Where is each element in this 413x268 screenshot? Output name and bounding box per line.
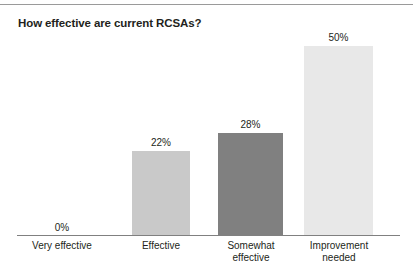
x-label-very-effective: Very effective bbox=[17, 240, 107, 252]
bar-improvement-needed[interactable] bbox=[304, 46, 373, 236]
bar-value-improvement-needed: 50% bbox=[304, 32, 373, 44]
bar-group-somewhat-effective: 28% bbox=[218, 0, 283, 236]
bar-somewhat-effective[interactable] bbox=[218, 133, 283, 236]
bar-value-effective: 22% bbox=[132, 137, 190, 149]
x-label-line: Effective bbox=[118, 240, 204, 252]
bar-slot: 22% bbox=[132, 0, 190, 236]
bar-slot: 0% bbox=[17, 0, 107, 236]
bar-effective[interactable] bbox=[132, 151, 190, 236]
bar-group-effective: 22% bbox=[132, 0, 190, 236]
x-label-line: effective bbox=[211, 252, 291, 264]
bar-value-very-effective: 0% bbox=[17, 222, 107, 234]
bar-value-somewhat-effective: 28% bbox=[218, 119, 283, 131]
bar-slot: 50% bbox=[304, 0, 373, 236]
x-label-line: Very effective bbox=[17, 240, 107, 252]
x-label-effective: Effective bbox=[118, 240, 204, 252]
x-label-improvement-needed: Improvement needed bbox=[298, 240, 380, 263]
bar-group-very-effective: 0% bbox=[17, 0, 107, 236]
x-axis-tick-labels: Very effective Effective Somewhat effect… bbox=[0, 238, 413, 268]
x-label-line: Somewhat bbox=[211, 240, 291, 252]
bar-slot: 28% bbox=[218, 0, 283, 236]
x-label-line: needed bbox=[298, 252, 380, 264]
bar-group-improvement-needed: 50% bbox=[304, 0, 373, 236]
plot-area: 0% 22% 28% 50% bbox=[0, 0, 413, 236]
bar-chart-figure: How effective are current RCSAs? 0% 22% … bbox=[0, 0, 413, 268]
x-label-line: Improvement bbox=[298, 240, 380, 252]
x-axis-baseline bbox=[17, 235, 400, 236]
x-label-somewhat-effective: Somewhat effective bbox=[211, 240, 291, 263]
